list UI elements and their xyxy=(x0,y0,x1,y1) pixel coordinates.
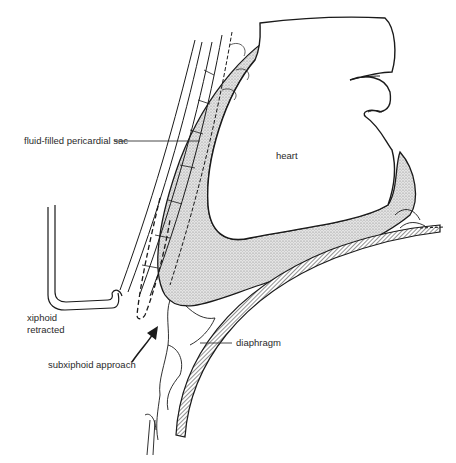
retractor xyxy=(48,205,122,310)
label-heart: heart xyxy=(276,150,298,162)
label-diaphragm: diaphragm xyxy=(236,337,281,349)
label-xiphoid: xiphoid xyxy=(27,312,57,324)
approach-arrow xyxy=(132,326,158,362)
label-retracted: retracted xyxy=(27,324,65,336)
label-subxiphoid-approach: subxiphoid approach xyxy=(48,359,136,371)
diagram-canvas: fluid-filled pericardial sac heart xipho… xyxy=(0,0,456,463)
heart xyxy=(208,17,395,239)
anatomy-illustration xyxy=(0,0,456,463)
label-pericardial-sac: fluid-filled pericardial sac xyxy=(24,135,128,147)
